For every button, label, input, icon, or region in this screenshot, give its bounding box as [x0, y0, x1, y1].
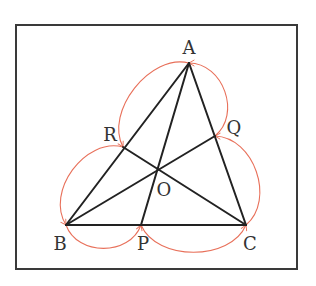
segment-CR	[123, 147, 246, 225]
triangle-diagram: ABCPQRO	[0, 0, 316, 286]
label-C: C	[243, 233, 257, 254]
segment-BQ	[66, 136, 215, 225]
label-O: O	[157, 179, 172, 200]
segment-AB	[66, 63, 189, 225]
arc-Q-A	[189, 63, 228, 136]
arc-A-R	[119, 62, 189, 147]
triangle-segments	[66, 63, 246, 225]
label-P: P	[137, 233, 149, 254]
ratio-arcs	[60, 62, 260, 252]
arc-R-B	[60, 146, 123, 225]
segment-AP	[141, 63, 189, 225]
arc-C-Q	[215, 136, 260, 225]
label-Q: Q	[227, 117, 242, 138]
arc-B-P	[66, 225, 141, 248]
label-B: B	[53, 233, 66, 254]
arc-P-C	[141, 225, 246, 252]
label-A: A	[182, 37, 197, 58]
label-R: R	[103, 124, 117, 145]
